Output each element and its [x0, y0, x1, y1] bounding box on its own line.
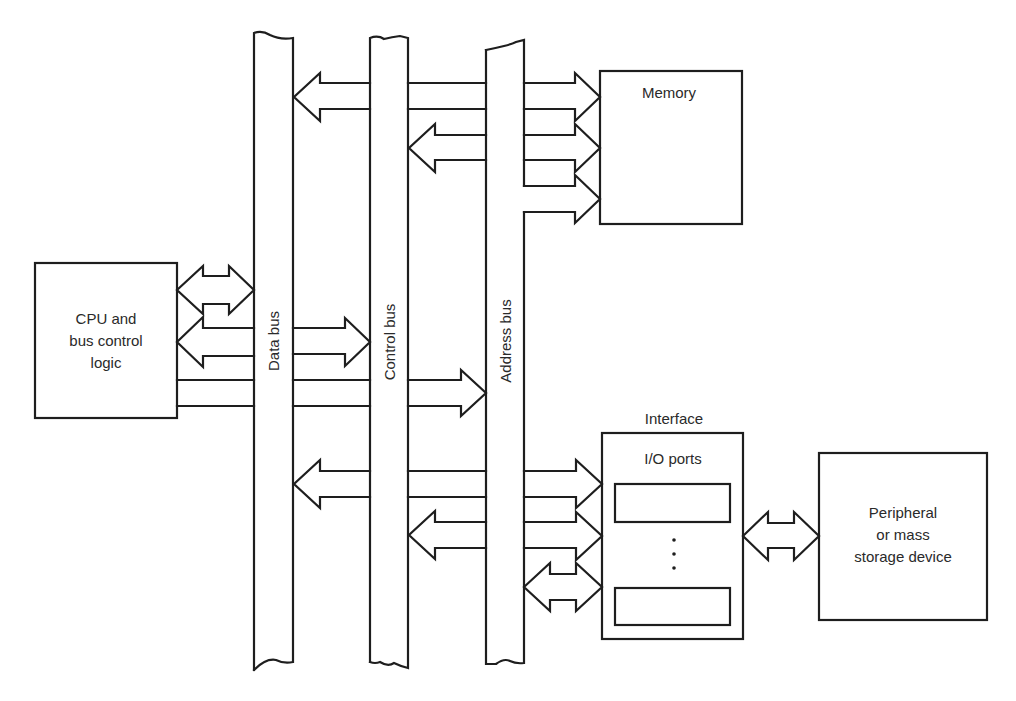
cpu-data-bidirectional-arrow [177, 266, 254, 314]
interface-to-control-arrow [409, 511, 486, 559]
address-interface-bidirectional-arrow [524, 563, 602, 611]
control-bus-label: Control bus [381, 304, 398, 381]
memory-label: Memory [642, 84, 697, 101]
data-to-control-arrow [293, 318, 370, 366]
memory-to-control-arrow [409, 124, 486, 172]
memory-to-data-arrow [294, 73, 370, 121]
data-to-interface-arrow [524, 460, 602, 508]
control-to-interface-arrow [524, 512, 602, 560]
peripheral-label-line-3: storage device [854, 548, 952, 565]
cpu-to-address-lines [177, 380, 370, 406]
bus-architecture-diagram: CPU and bus control logic Memory Interfa… [0, 0, 1016, 701]
control-to-memory-arrow [524, 124, 600, 172]
io-port-register-n [615, 588, 730, 625]
address-bus-label: Address bus [497, 299, 514, 382]
interface-peripheral-bidirectional-arrow [743, 512, 819, 560]
data-bus-label: Data bus [265, 311, 282, 371]
address-to-memory-arrow [524, 175, 600, 223]
cpu-label-line-1: CPU and [76, 310, 137, 327]
interface-title: Interface [645, 410, 703, 427]
data-to-memory-arrow [524, 73, 600, 121]
peripheral-label-line-1: Peripheral [869, 504, 937, 521]
control-to-cpu-arrow [177, 317, 254, 367]
io-ports-label: I/O ports [644, 450, 702, 467]
cpu-label-line-2: bus control [69, 332, 142, 349]
interface-to-data-arrow [294, 460, 370, 508]
peripheral-label-line-2: or mass [876, 526, 929, 543]
cpu-to-address-arrow [408, 370, 486, 416]
io-port-register-1 [615, 484, 730, 522]
cpu-label-line-3: logic [91, 354, 122, 371]
